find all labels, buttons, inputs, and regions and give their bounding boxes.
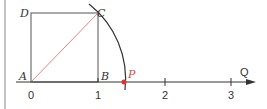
tick-label-0: 0 bbox=[28, 89, 34, 101]
diagonal-ac bbox=[31, 13, 98, 82]
label-c: C bbox=[97, 7, 106, 20]
number-line-diagram: A B C D P 0 1 2 3 Q bbox=[0, 0, 267, 109]
label-b: B bbox=[100, 70, 109, 83]
point-p bbox=[122, 80, 127, 85]
label-d: D bbox=[19, 7, 29, 20]
axis-arrow-icon bbox=[246, 79, 256, 85]
axis-label-q: Q bbox=[240, 66, 249, 78]
label-a: A bbox=[18, 70, 27, 83]
tick-label-1: 1 bbox=[95, 89, 101, 101]
label-p: P bbox=[127, 68, 136, 81]
tick-label-2: 2 bbox=[162, 89, 168, 101]
tick-label-3: 3 bbox=[228, 89, 234, 101]
